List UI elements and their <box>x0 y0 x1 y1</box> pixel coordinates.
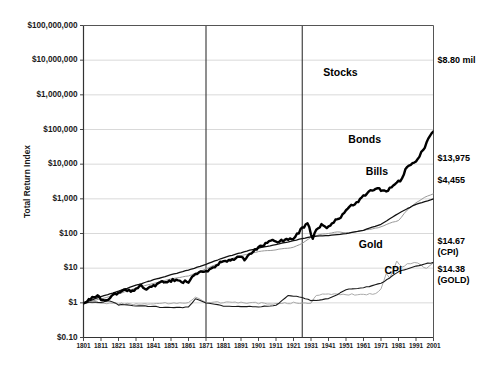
end-value-label-gold: $14.38 <box>438 264 466 274</box>
stocks-bonds-bills-gold-cpi-chart: $0.10$1$10$100$1,000$10,000$100,000$1,00… <box>0 0 495 376</box>
y-axis-tick-label: $10,000 <box>48 159 78 168</box>
series-label-cpi: CPI <box>384 264 402 276</box>
x-axis-tick-label: 1931 <box>304 342 319 349</box>
x-axis-tick-label: 1841 <box>146 342 161 349</box>
series-label-bills: Bills <box>366 165 388 177</box>
y-axis-tick-label: $100,000 <box>43 125 78 134</box>
x-axis-tick-label: 1801 <box>76 342 91 349</box>
x-axis-tick-label: 1961 <box>356 342 371 349</box>
x-axis-tick-label: 1851 <box>164 342 179 349</box>
x-axis-tick-label: 1831 <box>129 342 144 349</box>
end-value-label-bills: $4,455 <box>438 175 466 185</box>
y-axis-tick-label: $10,000,000 <box>32 55 78 64</box>
y-axis-tick-label: $100,000,000 <box>27 21 78 30</box>
end-value-sublabel-gold: (GOLD) <box>438 275 470 285</box>
y-axis-tick-label: $10 <box>64 263 78 272</box>
x-axis-tick-label: 1921 <box>286 342 301 349</box>
x-axis-tick-label: 1821 <box>111 342 126 349</box>
x-axis-tick-label: 1861 <box>181 342 196 349</box>
y-axis-tick-label: $1,000 <box>52 194 77 203</box>
x-axis-tick-label: 1951 <box>339 342 354 349</box>
end-value-label-cpi: $14.67 <box>438 236 466 246</box>
x-axis-tick-label: 2001 <box>426 342 441 349</box>
x-axis-tick-label: 1881 <box>216 342 231 349</box>
chart-canvas: $0.10$1$10$100$1,000$10,000$100,000$1,00… <box>0 0 495 376</box>
x-axis-tick-label: 1911 <box>269 342 283 349</box>
series-line-bills <box>84 199 434 303</box>
x-axis-tick-label: 1891 <box>234 342 249 349</box>
y-axis-tick-label: $0.10 <box>57 333 78 342</box>
series-line-stocks <box>84 131 434 303</box>
end-value-label-stocks: $8.80 mil <box>438 55 476 65</box>
series-label-bonds: Bonds <box>348 133 381 145</box>
y-axis-tick-label: $1 <box>68 298 78 307</box>
x-axis-tick-label: 1981 <box>391 342 406 349</box>
x-axis-tick-label: 1941 <box>321 342 336 349</box>
x-axis-tick-label: 1811 <box>94 342 108 349</box>
x-axis-tick-label: 1971 <box>374 342 389 349</box>
end-value-sublabel-cpi: (CPI) <box>438 247 459 257</box>
y-axis-title: Total Return Index <box>22 145 32 218</box>
x-axis-tick-label: 1901 <box>251 342 266 349</box>
x-axis-tick-label: 1991 <box>409 342 424 349</box>
y-axis-tick-label: $100 <box>59 229 78 238</box>
y-axis-tick-label: $1,000,000 <box>37 90 78 99</box>
end-value-label-bonds: $13,975 <box>438 153 471 163</box>
series-label-gold: Gold <box>359 238 383 250</box>
series-label-stocks: Stocks <box>323 66 358 78</box>
x-axis-tick-label: 1871 <box>199 342 214 349</box>
